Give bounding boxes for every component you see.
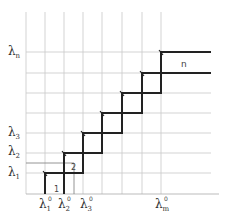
diagram-canvas [0, 0, 227, 223]
y-label-sub: 2 [16, 152, 20, 160]
region-label-n: n [181, 60, 187, 69]
region-label-2: 2 [71, 164, 76, 172]
staircase-diagram: λ1 λ2 λ3 λn λ1 0 λ2 0 λ3 0 λm 0 1 2 n [0, 0, 227, 223]
y-label-base: λ [8, 44, 16, 58]
x-label-sub: 2 [66, 205, 70, 213]
y-label-sub: 1 [16, 173, 20, 181]
x-label-base: λ [39, 197, 47, 211]
x-label-base: λ [58, 197, 66, 211]
x-label-sub: 1 [47, 205, 51, 213]
region-label-1: 1 [54, 186, 59, 194]
x-label-sup: 0 [89, 196, 93, 202]
y-label-sub: n [16, 52, 21, 60]
y-label-lambda-3: λ3 [8, 126, 20, 141]
y-label-base: λ [8, 144, 16, 158]
x-label-sup: 0 [164, 196, 168, 202]
x-label-sup: 0 [48, 196, 52, 202]
y-label-sub: 3 [16, 133, 20, 141]
y-label-base: λ [8, 125, 16, 139]
y-label-lambda-1: λ1 [8, 166, 20, 181]
x-label-sub: 3 [88, 205, 92, 213]
x-label-sub: m [163, 205, 170, 213]
x-label-base: λ [80, 197, 88, 211]
x-label-sup: 0 [67, 196, 71, 202]
x-label-base: λ [155, 197, 163, 211]
aux-rectangle [26, 163, 74, 194]
y-label-lambda-2: λ2 [8, 145, 20, 160]
y-label-lambda-n: λn [8, 45, 20, 60]
y-label-base: λ [8, 165, 16, 179]
